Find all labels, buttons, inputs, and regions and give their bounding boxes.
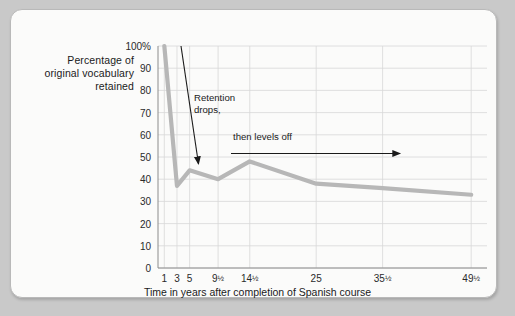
retention-line-chart: Percentage of original vocabulary retain… (0, 0, 515, 316)
annotation-then-levels-off: then levels off (233, 131, 292, 143)
x-axis-title: Time in years after completion of Spanis… (0, 286, 515, 298)
annotation-retention-drops: Retention drops, (194, 92, 235, 116)
plot-canvas (0, 0, 515, 316)
grid-lines (158, 46, 487, 268)
